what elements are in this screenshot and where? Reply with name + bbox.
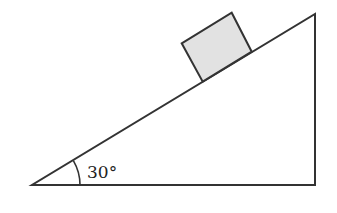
angle-arc [74, 161, 81, 185]
inclined-plane-diagram: 30° [0, 0, 337, 213]
angle-label: 30° [87, 162, 117, 182]
block-on-incline [182, 13, 252, 82]
incline-triangle [32, 14, 315, 185]
